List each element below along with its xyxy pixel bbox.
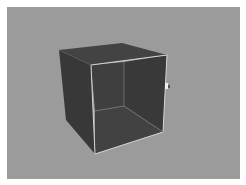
pointer-cursor-icon xyxy=(165,83,170,89)
cube-scene[interactable] xyxy=(0,0,246,185)
cube-left-face[interactable] xyxy=(59,50,95,154)
cube-back-face[interactable] xyxy=(91,62,124,111)
